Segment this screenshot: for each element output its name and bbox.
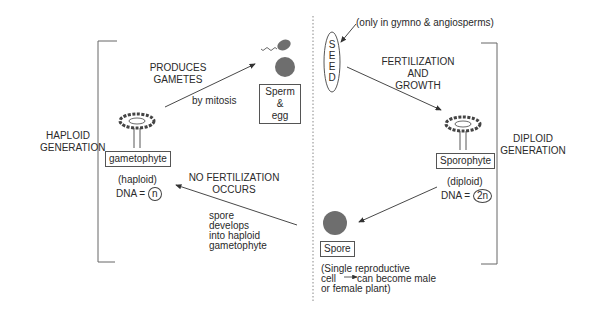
no-fertilization-line1: NO FERTILIZATION [186,172,282,184]
no-fertilization-line2: OCCURS [186,184,282,196]
egg-icon [275,57,295,77]
gametophyte-dna: DNA = n [116,187,162,201]
gametophyte-box: gametophyte [105,151,171,167]
diploid-ploidy-label: (diploid) [447,176,483,188]
sporophyte-label: Sporophyte [440,155,491,166]
gametophyte-label: gametophyte [109,153,167,164]
diploid-label-line2: GENERATION [500,145,566,157]
spore-note-line3: or female plant) [321,284,436,294]
produces-gametes-label: PRODUCES GAMETES [148,62,208,86]
dna-value-2n: 2n [473,189,492,203]
fertilization-label: FERTILIZATION AND GROWTH [378,56,458,92]
haploid-ploidy-label: (haploid) [118,174,157,186]
produces-gametes-line1: PRODUCES [148,62,208,74]
fertilization-line2: AND [378,68,458,80]
seed-letter-s: S [326,39,338,50]
no-fertilization-label: NO FERTILIZATION OCCURS [186,172,282,196]
spore-develops-line4: gametophyte [209,241,267,251]
diagram-graphics [0,0,594,316]
haploid-label-line2: GENERATION [40,142,96,154]
seed-label: S E E D [326,39,338,83]
spore-develops-label: spore develops into haploid gametophyte [209,211,267,251]
by-mitosis-label: by mitosis [192,95,236,107]
arrow-sporophyte-to-spore [359,187,437,222]
fertilization-line3: GROWTH [378,80,458,92]
sperm-icon [261,38,292,53]
sperm-egg-line2: egg [262,110,298,122]
sperm-egg-line1: Sperm & [262,86,298,110]
spore-label: Spore [324,243,351,254]
seed-note: (only in gymno & angiosperms) [356,17,494,29]
sperm-egg-box: Sperm & egg [259,84,301,124]
sporophyte-box: Sporophyte [436,153,495,169]
alternation-of-generations-diagram: HAPLOID GENERATION gametophyte (haploid)… [0,0,594,316]
spore-icon [323,211,347,235]
haploid-generation-label: HAPLOID GENERATION [40,130,96,154]
arrow-note-to-seed [341,24,356,42]
fertilization-line1: FERTILIZATION [378,56,458,68]
seed-letter-d: D [326,72,338,83]
spore-box: Spore [320,241,355,257]
diploid-generation-label: DIPLOID GENERATION [500,133,566,157]
produces-gametes-line2: GAMETES [148,74,208,86]
dna-value-n: n [148,187,162,201]
seed-letter-e1: E [326,50,338,61]
gametophyte-flower-icon [120,114,154,148]
haploid-label-line1: HAPLOID [40,130,96,142]
diploid-label-line1: DIPLOID [500,133,566,145]
dna-prefix: DNA = [116,188,145,199]
sporophyte-dna: DNA = 2n [441,189,492,203]
seed-letter-e2: E [326,61,338,72]
spore-note: (Single reproductive cellcan become male… [321,264,436,294]
dna-prefix: DNA = [441,190,470,201]
sporophyte-flower-icon [446,117,480,150]
